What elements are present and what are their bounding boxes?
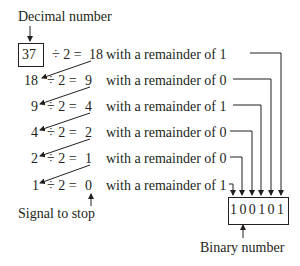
connector-lines	[0, 0, 300, 266]
